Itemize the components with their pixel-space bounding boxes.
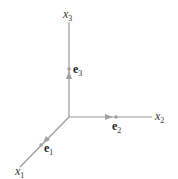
e3-label: e3 [73, 62, 82, 78]
coordinate-diagram: x3 x2 x1 e3 e2 e1 [0, 0, 178, 179]
e1-label: e1 [44, 141, 53, 157]
x2-label: x2 [154, 109, 164, 125]
e1-point [39, 143, 43, 147]
e2-label: e2 [112, 119, 121, 135]
x3-label: x3 [62, 7, 72, 23]
e3-point [67, 67, 71, 71]
e3-arrowhead-icon [66, 71, 72, 79]
x1-label: x1 [14, 164, 24, 179]
